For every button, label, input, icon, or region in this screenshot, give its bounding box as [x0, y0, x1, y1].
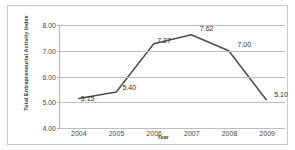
data-point-label: 7.00 — [238, 41, 252, 48]
y-tick-label: 6.00 — [42, 73, 56, 80]
y-tick-mark — [57, 25, 60, 26]
gridline-y — [60, 25, 285, 26]
x-tick-label: 2004 — [71, 130, 87, 137]
y-tick-label: 8.00 — [42, 22, 56, 29]
data-point-label: 7.62 — [200, 25, 214, 32]
gridline-y — [60, 102, 285, 103]
gridline-y — [60, 77, 285, 78]
chart-figure: Total Entrepreneurial Activity Index 4.0… — [0, 0, 295, 150]
figure-frame: Total Entrepreneurial Activity Index 4.0… — [7, 5, 288, 145]
data-point-label: 5.15 — [81, 95, 95, 102]
plot-area: 4.005.006.007.008.0020042005200620072008… — [59, 25, 285, 128]
x-axis-title: Year — [157, 134, 168, 140]
x-tick-label: 2007 — [184, 130, 200, 137]
x-tick-label: 2005 — [109, 130, 125, 137]
y-tick-label: 7.00 — [42, 47, 56, 54]
data-point-label: 5.10 — [274, 91, 288, 98]
y-tick-label: 5.00 — [42, 99, 56, 106]
y-tick-mark — [57, 128, 60, 129]
y-tick-mark — [57, 77, 60, 78]
data-point-label: 5.40 — [123, 84, 137, 91]
y-tick-label: 4.00 — [42, 125, 56, 132]
gridline-y — [60, 51, 285, 52]
x-tick-label: 2008 — [222, 130, 238, 137]
data-point-label: 7.27 — [157, 37, 171, 44]
gridline-y — [60, 128, 285, 129]
y-axis-title: Total Entrepreneurial Activity Index — [23, 7, 29, 119]
y-tick-mark — [57, 102, 60, 103]
y-tick-mark — [57, 51, 60, 52]
x-tick-label: 2009 — [259, 130, 275, 137]
